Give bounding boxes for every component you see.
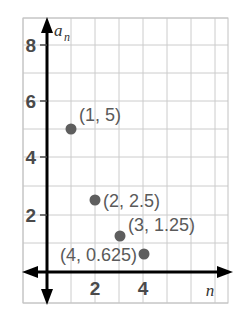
- data-point-label: (4, 0.625): [60, 245, 137, 265]
- x-tick-label-4: 4: [138, 278, 149, 299]
- data-point: [115, 231, 126, 242]
- x-tick-label-2: 2: [90, 278, 101, 299]
- y-tick-label-4: 4: [25, 147, 36, 168]
- data-point-label: (2, 2.5): [103, 191, 160, 211]
- y-tick-label-2: 2: [25, 205, 36, 226]
- y-tick-label-8: 8: [25, 35, 36, 56]
- y-tick-label-6: 6: [25, 91, 36, 112]
- sequence-scatter-plot: 8 6 4 2 2 4 a n n (1, 5) (2, 2.5) (3, 1.…: [0, 0, 245, 311]
- x-axis-label: n: [206, 281, 215, 300]
- y-axis-label-base: a: [54, 21, 63, 40]
- data-point-label: (3, 1.25): [128, 215, 195, 235]
- data-point: [90, 195, 101, 206]
- y-axis-label-subscript: n: [64, 30, 70, 44]
- data-point-label: (1, 5): [79, 105, 121, 125]
- data-point: [139, 249, 150, 260]
- data-point: [66, 124, 77, 135]
